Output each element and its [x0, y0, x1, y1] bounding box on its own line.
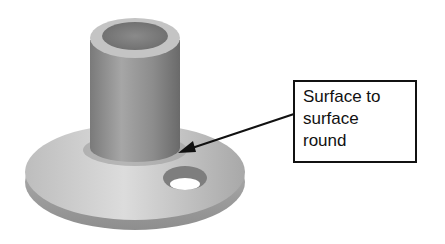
cylinder-boss	[90, 18, 180, 162]
callout-box: Surface to surface round	[293, 80, 417, 163]
callout-label: Surface to surface round	[303, 86, 407, 152]
mounting-hole	[163, 166, 207, 190]
diagram-canvas: Surface to surface round	[0, 0, 445, 244]
cylinder-bore	[102, 22, 168, 50]
